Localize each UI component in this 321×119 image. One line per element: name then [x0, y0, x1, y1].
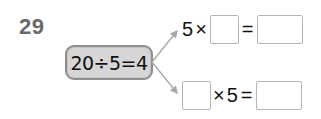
multiplication-row-top: 5 × =: [182, 15, 303, 44]
answer-box-bottom-product[interactable]: [256, 81, 302, 110]
multiplication-row-bottom: × 5 =: [182, 81, 302, 110]
times-sign: ×: [213, 81, 225, 110]
arrow-down-icon: [152, 62, 177, 93]
operand-five: 5: [227, 81, 238, 110]
arrow-up-icon: [152, 31, 177, 62]
equals-sign: =: [241, 81, 253, 110]
answer-box-bottom-factor[interactable]: [182, 81, 211, 110]
answer-box-top-factor[interactable]: [210, 15, 239, 44]
equals-sign: =: [242, 15, 254, 44]
answer-box-top-product[interactable]: [257, 15, 303, 44]
times-sign: ×: [195, 15, 207, 44]
operand-five: 5: [182, 15, 193, 44]
